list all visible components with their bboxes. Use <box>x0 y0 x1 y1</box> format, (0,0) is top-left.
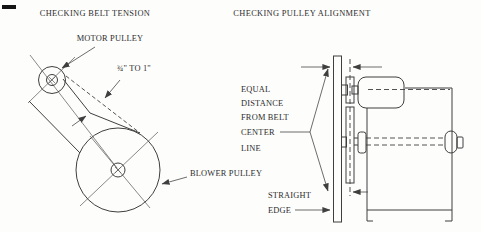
equal-distance-line-2: DISTANCE <box>241 99 283 108</box>
straight-edge-line-2: EDGE <box>268 206 291 215</box>
diagram-canvas: CHECKING BELT TENSION MOTOR PULLEY ¾" TO… <box>0 0 481 232</box>
blower-pulley-leader-arrow <box>162 177 187 184</box>
straight-edge-label: STRAIGHT EDGE <box>268 191 311 215</box>
belt-tension-diagram: CHECKING BELT TENSION MOTOR PULLEY ¾" TO… <box>28 9 262 212</box>
motor-shaft <box>352 86 358 94</box>
belt-tension-title: CHECKING BELT TENSION <box>40 9 151 18</box>
motor-body <box>358 77 404 108</box>
equal-distance-line-4: CENTER <box>241 128 275 137</box>
equal-distance-label: EQUAL DISTANCE FROM BELT CENTER LINE <box>241 85 289 153</box>
pulley-center-to-center-line <box>30 55 117 168</box>
bracket-upper-arrow <box>310 69 328 132</box>
belt-deflected <box>63 79 140 133</box>
shaft-bearing <box>445 131 457 153</box>
blower-shaft-hub <box>358 132 366 153</box>
deflection-leader-arrow <box>105 80 120 98</box>
scanned-diagram-page: CHECKING BELT TENSION MOTOR PULLEY ¾" TO… <box>0 0 481 232</box>
motor-pulley-label: MOTOR PULLEY <box>77 34 144 43</box>
equal-distance-line-5: LINE <box>241 144 261 153</box>
motor-pulley-center-mark <box>49 77 55 83</box>
blower-pulley-cross-line-1 <box>90 136 150 208</box>
motor-shaft-end <box>342 85 348 95</box>
pulley-alignment-title: CHECKING PULLEY ALIGNMENT <box>233 9 370 18</box>
blower-pulley-label: BLOWER PULLEY <box>190 169 262 178</box>
belt-original-position-dashed <box>66 76 140 133</box>
straight-edge-bar <box>334 56 342 222</box>
blower-pulley-cross-line-2 <box>80 132 158 206</box>
motor-pulley-leader-arrow <box>62 47 95 68</box>
shaft-bearing-nub <box>457 137 463 148</box>
equal-distance-line-3: FROM BELT <box>241 113 289 122</box>
deflection-label: ¾" TO 1" <box>117 64 151 73</box>
pulley-alignment-diagram: CHECKING PULLEY ALIGNMENT <box>233 9 463 222</box>
straight-edge-line-1: STRAIGHT <box>268 191 311 200</box>
bracket-lower-arrow <box>310 132 328 191</box>
equal-distance-line-1: EQUAL <box>241 85 270 94</box>
belt-left-side <box>29 101 80 153</box>
page-edge-dash <box>2 5 16 9</box>
